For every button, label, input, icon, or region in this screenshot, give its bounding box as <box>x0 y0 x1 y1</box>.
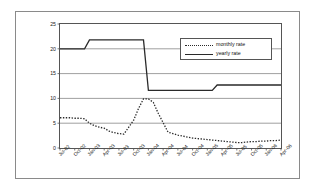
y-axis-tick-label: 0 <box>44 145 56 151</box>
y-axis-tick-label: 5 <box>44 120 56 126</box>
y-axis-tick-label: 20 <box>44 46 56 52</box>
series-line-monthly-rate <box>60 99 281 143</box>
y-axis-tick-label: 25 <box>44 21 56 27</box>
legend-label-monthly: monthly rate <box>216 41 245 47</box>
y-axis-tick-label: 15 <box>44 70 56 76</box>
chart-legend: monthly rate yearly rate <box>180 38 272 60</box>
legend-item-yearly: yearly rate <box>184 50 272 60</box>
legend-label-yearly: yearly rate <box>216 50 241 56</box>
y-axis-tick-label: 10 <box>44 95 56 101</box>
legend-swatch-yearly-icon <box>185 54 213 55</box>
legend-swatch-monthly-icon <box>185 45 213 46</box>
